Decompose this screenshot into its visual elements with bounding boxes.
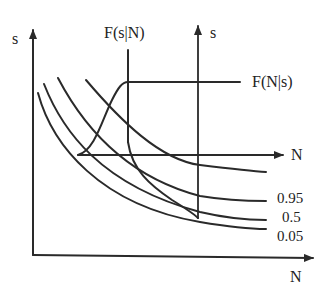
label-0.05: 0.05	[277, 228, 303, 244]
main-x-axis-label: N	[290, 268, 302, 285]
upper-curve	[86, 80, 266, 172]
inset-x-axis-label: N	[291, 146, 303, 163]
quantile-curves-diagram: s N 0.95 0.5 0.05 F(s|N) F(N|s) s N	[0, 0, 327, 292]
f-n-given-s-label: F(N|s)	[252, 73, 293, 91]
quantile-curves	[38, 78, 266, 229]
f-s-given-n-density-tail	[128, 142, 198, 218]
main-x-axis	[33, 255, 313, 258]
inset-y-axis-label: s	[210, 24, 216, 41]
conditional-n-given-s: F(N|s)	[128, 73, 293, 91]
label-0.95: 0.95	[277, 190, 303, 206]
f-s-given-n-label: F(s|N)	[104, 24, 145, 42]
curve-labels: 0.95 0.5 0.05	[277, 190, 303, 244]
main-axes: s N	[12, 30, 313, 285]
curve-0.95	[58, 78, 266, 201]
label-0.5: 0.5	[282, 209, 301, 225]
main-y-axis-label: s	[12, 30, 18, 47]
curve-0.05	[38, 93, 266, 229]
